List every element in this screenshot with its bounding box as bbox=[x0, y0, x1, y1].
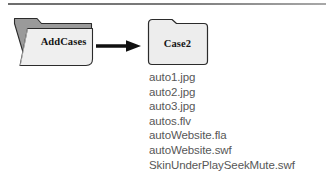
list-item: autoWebsite.fla bbox=[149, 128, 321, 143]
list-item: autos.flv bbox=[149, 114, 321, 129]
destination-folder-case2[interactable]: Case2 bbox=[146, 14, 209, 66]
list-item: auto1.jpg bbox=[149, 70, 321, 85]
folder-icon-addcases bbox=[13, 15, 105, 67]
list-item: autoWebsite.swf bbox=[149, 143, 321, 158]
folder-icon-case2 bbox=[146, 14, 209, 66]
list-item: auto2.jpg bbox=[149, 85, 321, 100]
folder-copy-diagram: AddCases Case2 auto1.jpg auto2.jpg auto3… bbox=[0, 0, 326, 186]
file-list: auto1.jpg auto2.jpg auto3.jpg autos.flv … bbox=[149, 70, 321, 172]
list-item: SkinUnderPlaySeekMute.swf bbox=[149, 158, 321, 173]
arrow-right-icon bbox=[96, 38, 146, 54]
list-item: auto3.jpg bbox=[149, 99, 321, 114]
source-folder-addcases[interactable]: AddCases bbox=[13, 15, 105, 67]
